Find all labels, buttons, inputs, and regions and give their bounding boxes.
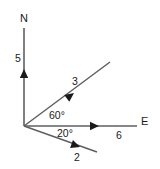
vector-2-magnitude-label: 2 [74,151,80,163]
angle-20-label: 20° [57,127,73,139]
angle-60-label: 60° [49,109,65,121]
east-magnitude-label: 6 [116,129,122,141]
north-magnitude-label: 5 [15,52,21,64]
east-axis-label: E [141,115,148,127]
vector-diagram: N 5 E 6 3 2 60° 20° [0,0,160,169]
north-axis-label: N [20,12,28,24]
vector-diagram-canvas: N 5 E 6 3 2 60° 20° [0,0,160,169]
vector-3-magnitude-label: 3 [72,75,78,87]
